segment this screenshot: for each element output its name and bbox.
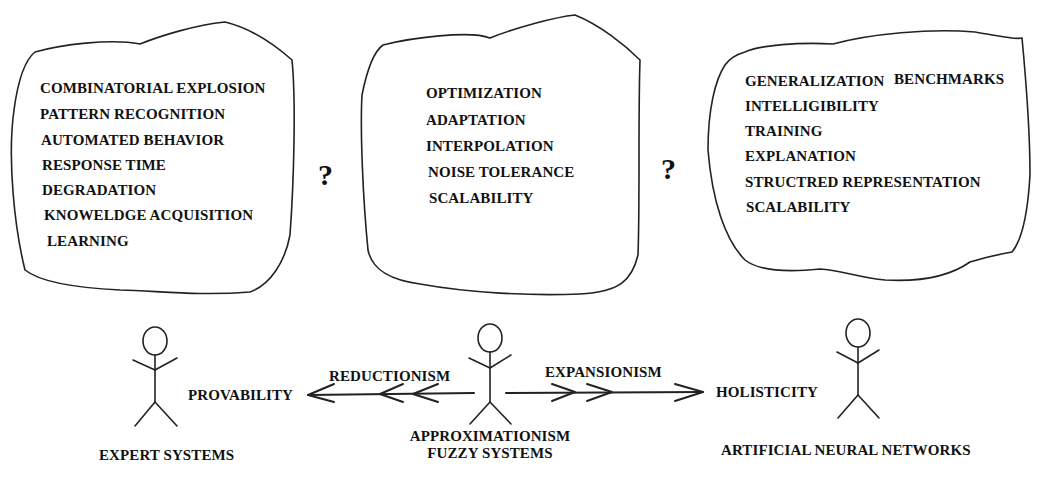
cloud-item: OPTIMIZATION: [426, 85, 542, 102]
cloud-item: PATTERN RECOGNITION: [40, 106, 225, 123]
cloud-item: SCALABILITY: [429, 190, 533, 207]
cloud-item: RESPONSE TIME: [42, 157, 166, 174]
holisticity-label: HOLISTICITY: [716, 384, 818, 401]
approximationism-label: APPROXIMATIONISM: [405, 428, 575, 445]
cloud-item: AUTOMATED BEHAVIOR: [41, 132, 224, 149]
expansionism-label: EXPANSIONISM: [545, 364, 662, 381]
cloud-item: COMBINATORIAL EXPLOSION: [40, 80, 266, 97]
figure-neural-icon: [837, 319, 879, 418]
artificial-neural-networks-label: ARTIFICIAL NEURAL NETWORKS: [721, 442, 971, 459]
cloud-item: LEARNING: [47, 233, 129, 250]
question-mark-1: ?: [318, 158, 333, 192]
cloud-item: GENERALIZATION: [745, 73, 884, 90]
reductionism-arrow-icon: [308, 384, 474, 402]
cloud-item: STRUCTRED REPRESENTATION: [745, 174, 981, 191]
question-mark-2: ?: [661, 152, 676, 186]
fuzzy-systems-label: FUZZY SYSTEMS: [405, 445, 575, 462]
expansionism-arrow-icon: [506, 384, 703, 401]
figure-expert-icon: [133, 327, 177, 426]
cloud-item: ADAPTATION: [426, 112, 526, 129]
reductionism-label: REDUCTIONISM: [329, 368, 450, 385]
cloud-item: TRAINING: [745, 123, 822, 140]
expert-systems-label: EXPERT SYSTEMS: [99, 447, 234, 464]
cloud-item: DEGRADATION: [42, 182, 156, 199]
cloud-item: SCALABILITY: [746, 199, 850, 216]
cloud-item: INTELLIGIBILITY: [745, 98, 879, 115]
provability-label: PROVABILITY: [188, 387, 293, 404]
cloud-item: NOISE TOLERANCE: [428, 164, 574, 181]
cloud-item: INTERPOLATION: [426, 138, 554, 155]
figure-fuzzy-icon: [469, 324, 511, 424]
cloud-item-benchmarks: BENCHMARKS: [894, 71, 1004, 88]
cloud-item: KNOWELDGE ACQUISITION: [44, 207, 253, 224]
cloud-item: EXPLANATION: [745, 148, 856, 165]
